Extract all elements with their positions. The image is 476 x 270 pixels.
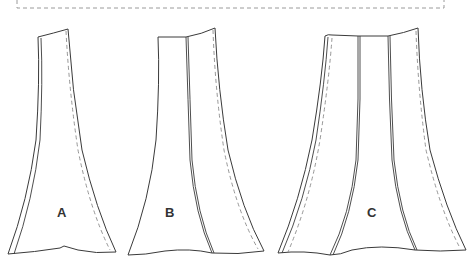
- pattern-drawing: A B C: [0, 0, 476, 270]
- panel-b-seam-allowance: [213, 30, 258, 249]
- panel-b-label: B: [165, 205, 174, 220]
- panel-c-left-seam: [282, 37, 328, 253]
- diagram-canvas: A B C: [0, 0, 476, 270]
- panel-c-right-seam-allowance: [416, 31, 460, 248]
- panel-c-seam-1-inner: [333, 36, 360, 255]
- panel-a: A: [8, 29, 116, 254]
- panel-c-seam-2-inner: [390, 36, 417, 250]
- panel-b-center-seam: [186, 37, 212, 253]
- panel-a-seam-allowance: [66, 31, 110, 250]
- panel-a-label: A: [57, 205, 67, 220]
- panel-c-label: C: [367, 205, 377, 220]
- panel-b-outline: [128, 28, 264, 255]
- panel-c-outline: [278, 28, 466, 255]
- panel-b-center-seam-inner: [188, 37, 214, 253]
- dashed-frame: [17, 0, 444, 8]
- panel-c-seam-2: [388, 36, 415, 250]
- panel-b: B: [128, 28, 264, 255]
- panel-a-left-seam: [14, 38, 42, 254]
- panel-c: C: [278, 28, 466, 255]
- panel-c-seam-1: [330, 36, 358, 255]
